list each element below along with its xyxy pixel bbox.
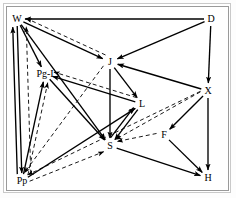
edge-x-to-j-solid bbox=[118, 64, 202, 89]
edge-l-to-pgi-dashed bbox=[54, 72, 137, 98]
edge-pgi-to-s-solid bbox=[50, 79, 105, 140]
edge-d-to-j-solid bbox=[117, 22, 204, 59]
node-d[interactable]: D bbox=[207, 14, 214, 24]
edge-f-to-s-dashed bbox=[117, 133, 156, 141]
edge-s-to-h-solid bbox=[117, 148, 201, 175]
edge-w-to-s-solid bbox=[21, 25, 105, 140]
graph-canvas: WDPg-IJXLFSPpH bbox=[0, 0, 236, 198]
edge-w-to-j-solid bbox=[23, 22, 102, 59]
edge-j-to-w-dashed bbox=[26, 18, 105, 55]
edge-x-to-f-solid bbox=[170, 96, 203, 129]
edge-pp-to-w-solid bbox=[13, 27, 18, 174]
edge-layer bbox=[0, 0, 236, 198]
edge-l-to-pgi-solid bbox=[53, 76, 136, 102]
node-pp[interactable]: Pp bbox=[17, 176, 28, 186]
node-l[interactable]: L bbox=[139, 99, 145, 109]
node-w[interactable]: W bbox=[12, 14, 21, 24]
node-j[interactable]: J bbox=[108, 57, 112, 67]
edge-pp-to-pgi-dashed bbox=[28, 83, 48, 175]
edges bbox=[13, 18, 211, 181]
edge-j-to-l-solid bbox=[114, 68, 137, 98]
edge-d-to-x-solid bbox=[208, 26, 210, 83]
edge-pp-to-l-solid bbox=[28, 108, 135, 177]
edge-w-to-pp-solid bbox=[17, 26, 22, 173]
node-f[interactable]: F bbox=[161, 130, 167, 140]
node-pgi[interactable]: Pg-I bbox=[36, 69, 53, 79]
edge-pp-to-pgi-solid bbox=[23, 82, 43, 174]
edge-w-to-pgi-solid bbox=[20, 25, 41, 67]
node-h[interactable]: H bbox=[204, 173, 211, 183]
node-s[interactable]: S bbox=[107, 141, 113, 151]
node-x[interactable]: X bbox=[204, 86, 211, 96]
